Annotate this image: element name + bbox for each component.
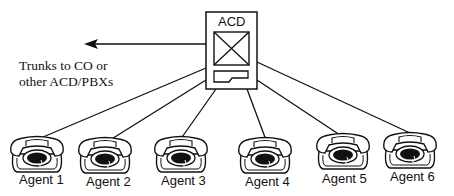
agent-label: Agent 1 [19, 172, 64, 187]
trunk-label-line1: Trunks to CO or [19, 58, 107, 74]
telephone-icon [239, 138, 292, 174]
agent-label: Agent 4 [245, 174, 290, 189]
trunk-label-line2: other ACD/PBXs [19, 74, 113, 90]
telephone-icon [11, 137, 64, 173]
telephone-icon [155, 137, 208, 173]
telephone-icon [317, 134, 370, 170]
agent-label: Agent 2 [86, 174, 131, 189]
diagram-graphics [0, 0, 454, 196]
agent-label: Agent 6 [390, 169, 435, 184]
telephone-icon [384, 133, 437, 169]
acd-diagram: ACD Trunks to CO or other ACD/PBXs Agent… [0, 0, 454, 196]
telephone-icon [79, 138, 132, 174]
agent-label: Agent 5 [322, 171, 367, 186]
acd-label: ACD [218, 14, 245, 29]
agent-label: Agent 3 [161, 173, 206, 188]
